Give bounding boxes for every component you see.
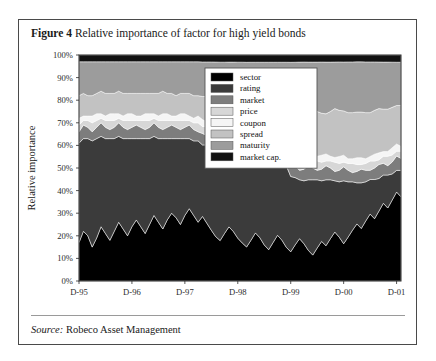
legend-swatch xyxy=(211,153,233,161)
legend-swatch xyxy=(211,96,233,104)
y-tick-label: 60% xyxy=(57,140,73,150)
figure-number: Figure 4 xyxy=(31,27,72,39)
source-divider xyxy=(31,315,405,316)
y-tick-label: 40% xyxy=(57,186,73,196)
legend-label: coupon xyxy=(240,118,266,128)
chart-container: 0%10%20%30%40%50%60%70%80%90%100% D-95D-… xyxy=(19,50,418,308)
y-axis: 0%10%20%30%40%50%60%70%80%90%100% xyxy=(53,50,79,286)
legend-label: rating xyxy=(240,83,261,93)
y-tick-label: 30% xyxy=(57,208,73,218)
source-note: Source: Robeco Asset Management xyxy=(31,324,181,335)
legend-label: maturity xyxy=(240,140,270,150)
figure-panel: Figure 4 Relative importance of factor f… xyxy=(18,19,417,345)
figure-caption: Figure 4 Relative importance of factor f… xyxy=(31,27,306,39)
y-tick-label: 100% xyxy=(53,50,73,60)
legend-swatch xyxy=(211,141,233,149)
x-tick-label: D-97 xyxy=(176,287,194,297)
x-axis: D-95D-96D-97D-98D-99D-00D-01 xyxy=(70,281,405,297)
source-label: Source: xyxy=(31,324,63,335)
y-tick-label: 70% xyxy=(57,118,73,128)
y-tick-label: 0% xyxy=(62,276,73,286)
legend-swatch xyxy=(211,130,233,138)
legend-swatch xyxy=(211,119,233,127)
legend-swatch xyxy=(211,84,233,92)
stacked-area-chart: 0%10%20%30%40%50%60%70%80%90%100% D-95D-… xyxy=(19,50,418,308)
y-tick-label: 50% xyxy=(57,163,73,173)
legend-label: market xyxy=(240,95,265,105)
x-tick-label: D-99 xyxy=(282,287,300,297)
x-tick-label: D-98 xyxy=(229,287,247,297)
legend-label: sector xyxy=(240,72,261,82)
legend-swatch xyxy=(211,107,233,115)
y-tick-label: 20% xyxy=(57,231,73,241)
figure-title: Relative importance of factor for high y… xyxy=(75,27,306,39)
chart-legend: sectorratingmarketpricecouponspreadmatur… xyxy=(205,68,317,168)
x-tick-label: D-01 xyxy=(388,287,406,297)
y-tick-label: 80% xyxy=(57,95,73,105)
source-value: Robeco Asset Management xyxy=(66,324,181,335)
legend-label: spread xyxy=(240,129,264,139)
legend-swatch xyxy=(211,73,233,81)
y-tick-label: 90% xyxy=(57,73,73,83)
y-tick-label: 10% xyxy=(57,253,73,263)
legend-label: market cap. xyxy=(240,152,281,162)
y-axis-label: Relative importance xyxy=(26,125,37,210)
legend-label: price xyxy=(240,106,258,116)
area-market-cap- xyxy=(79,55,401,62)
x-tick-label: D-95 xyxy=(70,287,88,297)
x-tick-label: D-00 xyxy=(335,287,353,297)
y-axis-title: Relative importance xyxy=(26,125,37,210)
x-tick-label: D-96 xyxy=(123,287,141,297)
